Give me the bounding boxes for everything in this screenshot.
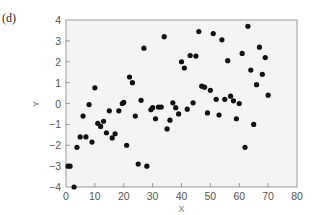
data-point — [159, 104, 164, 109]
data-point — [185, 107, 190, 112]
data-point — [257, 45, 262, 50]
y-tick-label: 3 — [55, 35, 61, 47]
data-point — [219, 37, 224, 42]
data-point — [190, 100, 195, 105]
data-point — [104, 130, 109, 135]
x-tick-label: 70 — [262, 190, 274, 202]
data-point — [138, 98, 143, 103]
scatter-chart: 01020304050607080 −4−3−2−101234 X Y — [0, 0, 317, 215]
y-tick-label: 1 — [55, 77, 61, 89]
data-point — [133, 113, 138, 118]
x-tick-label: 40 — [176, 190, 188, 202]
data-point — [150, 105, 155, 110]
data-point — [222, 97, 227, 102]
x-tick-label: 30 — [147, 190, 159, 202]
data-point — [164, 126, 169, 131]
data-point — [245, 24, 250, 29]
data-point — [179, 59, 184, 64]
y-tick-label: 0 — [55, 98, 61, 110]
data-point — [78, 134, 83, 139]
data-point — [205, 110, 210, 115]
data-point — [211, 31, 216, 36]
y-axis-title: Y — [31, 101, 41, 107]
data-point — [231, 98, 236, 103]
data-point — [263, 55, 268, 60]
data-point — [71, 184, 76, 189]
x-tick-label: 0 — [63, 190, 69, 202]
data-point — [130, 80, 135, 85]
y-tick-label: −4 — [49, 181, 61, 193]
y-tick-label: 2 — [55, 56, 61, 68]
data-point — [112, 131, 117, 136]
data-point — [167, 118, 172, 123]
data-point — [74, 145, 79, 150]
plot-area — [66, 20, 297, 187]
data-point — [260, 72, 265, 77]
data-point — [107, 108, 112, 113]
data-point — [242, 145, 247, 150]
x-tick-label: 10 — [89, 190, 101, 202]
data-point — [225, 58, 230, 63]
data-point — [188, 53, 193, 58]
data-point — [173, 105, 178, 110]
data-point — [83, 134, 88, 139]
data-point — [136, 161, 141, 166]
data-point — [176, 111, 181, 116]
data-point — [87, 102, 92, 107]
data-point — [162, 34, 167, 39]
x-tick-label: 80 — [291, 190, 303, 202]
data-point — [196, 29, 201, 34]
data-point — [216, 112, 221, 117]
x-tick-label: 60 — [233, 190, 245, 202]
data-point — [266, 93, 271, 98]
data-point — [202, 85, 207, 90]
data-point — [101, 119, 106, 124]
data-point — [89, 140, 94, 145]
data-point — [248, 68, 253, 73]
data-point — [214, 97, 219, 102]
data-point — [153, 116, 158, 121]
data-point — [98, 124, 103, 129]
data-point — [251, 122, 256, 127]
data-point — [141, 46, 146, 51]
data-point — [80, 113, 85, 118]
data-point — [240, 51, 245, 56]
data-point — [127, 74, 132, 79]
data-point — [254, 82, 259, 87]
x-tick-label: 50 — [205, 190, 217, 202]
data-point — [144, 164, 149, 169]
data-point — [67, 164, 72, 169]
y-tick-label: 4 — [55, 14, 61, 26]
data-point — [193, 54, 198, 59]
data-point — [124, 143, 129, 148]
y-tick-label: −2 — [49, 139, 61, 151]
data-point — [92, 85, 97, 90]
x-tick-label: 20 — [118, 190, 130, 202]
data-point — [208, 88, 213, 93]
data-point — [116, 108, 121, 113]
data-point — [182, 65, 187, 70]
data-point — [234, 116, 239, 121]
data-point — [121, 100, 126, 105]
data-point — [237, 101, 242, 106]
y-tick-label: −3 — [49, 160, 61, 172]
data-point — [228, 94, 233, 99]
data-point — [170, 100, 175, 105]
y-tick-label: −1 — [49, 118, 61, 130]
x-axis-title: X — [178, 204, 184, 214]
